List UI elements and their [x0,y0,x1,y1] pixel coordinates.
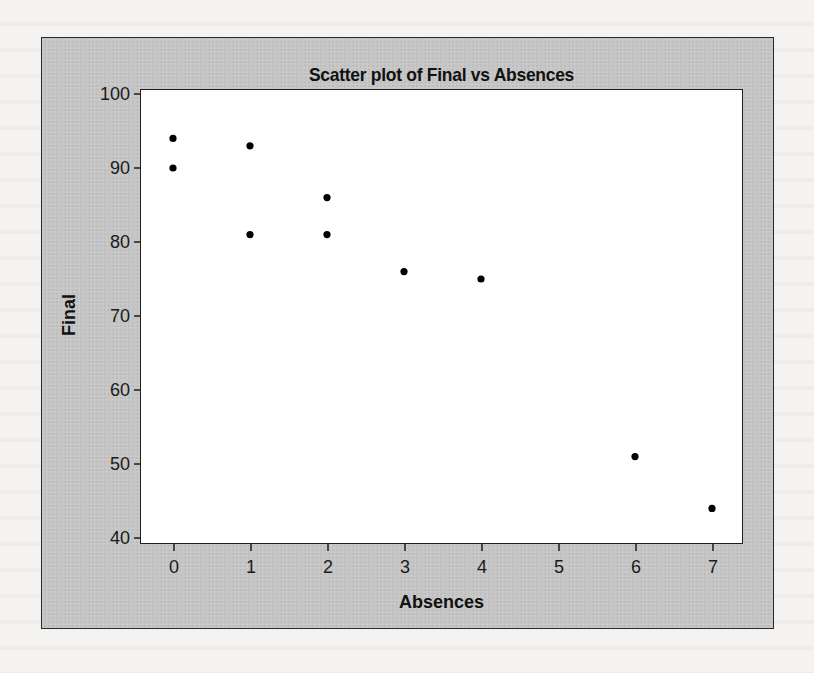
y-tick-label: 90 [110,158,130,178]
data-point [708,505,715,512]
y-tick-label: 50 [110,454,130,474]
y-tick-label: 60 [110,380,130,400]
data-point [323,194,330,201]
data-point [631,453,638,460]
x-axis: 01234567 [169,544,718,577]
data-point [169,164,176,171]
y-tick-label: 80 [110,232,130,252]
x-tick-label: 7 [708,557,718,577]
y-tick-label: 70 [110,306,130,326]
data-point [323,231,330,238]
data-point [246,142,253,149]
data-point [169,135,176,142]
x-tick-label: 0 [169,557,179,577]
data-point [246,231,253,238]
x-tick-label: 4 [477,557,487,577]
y-tick-label: 40 [110,528,130,548]
data-point [400,268,407,275]
x-tick-label: 6 [631,557,641,577]
data-point [477,275,484,282]
x-tick-label: 2 [323,557,333,577]
x-tick-label: 1 [246,557,256,577]
y-axis: 405060708090100 [100,84,140,548]
chart-overlay: 405060708090100 01234567 [0,0,814,673]
y-axis-label: Final [59,294,80,336]
y-tick-label: 100 [100,84,130,104]
data-points [169,135,715,512]
x-tick-label: 3 [400,557,410,577]
x-axis-label: Absences [140,592,743,613]
x-tick-label: 5 [554,557,564,577]
